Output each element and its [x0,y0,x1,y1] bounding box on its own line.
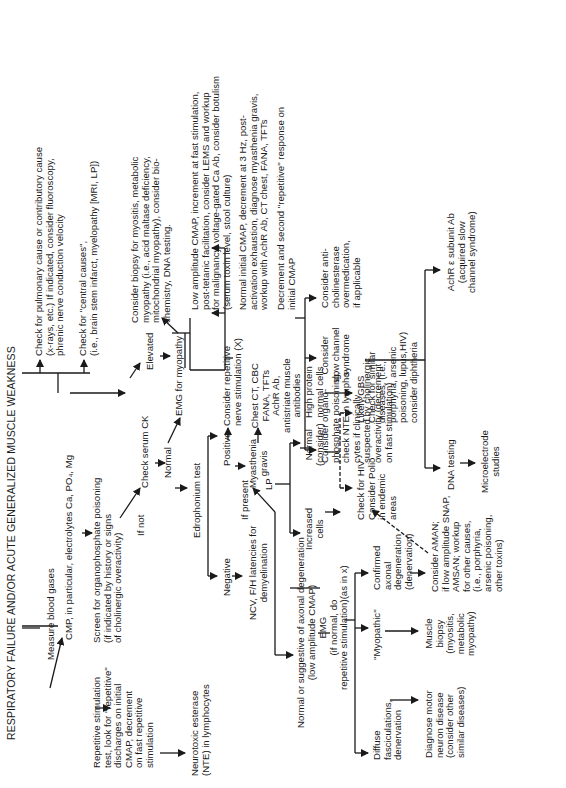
node-repetitive-stimulation-test: Repetitive stimulation test, look for "r… [92,667,156,768]
node-nte-lymphocytes: Neurotoxic esterase (NTE) in lymphocytes [190,684,211,776]
node-repetitive-nerve-stimulation: Consider repetitive nerve stimulation (X… [222,338,243,426]
node-muscle-biopsy: Muscle biopsy (myositis, metabolic myopa… [424,611,477,656]
label-if-present: If present [240,480,251,520]
node-central-causes: Check for "central causes", (i.e., brain… [78,161,99,356]
flowchart-page: RESPIRATORY FAILURE AND/OR ACUTE GENERAL… [0,0,566,788]
node-biopsy-myositis: Consider biopsy for myositis, metabolic … [130,156,172,323]
node-anticholinesterase: Consider anti- cholinesterase overmedica… [320,240,362,308]
node-emg: EMG (if normal, do repetitive stimulatio… [318,565,350,690]
label-if-not: If not [136,515,147,536]
node-confirmed-axonal: Confirmed axonal degeneration (denervati… [372,533,414,590]
node-normal-or-axonal: Normal or suggestive of axonal degenerat… [296,537,317,728]
label-positive: Positive [222,432,233,466]
node-normal-consider: Normal (consider) [304,423,325,466]
node-ncv-latencies: NCV, F/H latencies for demyelination [248,525,269,620]
node-consider-aman: Consider AMAN; if low amplitude SNAP, AM… [430,496,504,592]
node-motor-neuron-disease: Diagnose motor neuron disease (consider … [424,687,466,758]
node-edrophonium-test: Edrophonium test [192,463,203,538]
label-elevated: Elevated [145,333,156,370]
node-emg-myopathy: EMG for myopathy [174,336,185,416]
node-screen-organophosphate: Screen for organophosphate poisoning (if… [92,478,124,643]
node-chest-ct: Chest CT, CBC FANA, TFTs AchR Ab, antist… [250,358,303,433]
flowchart-title: RESPIRATORY FAILURE AND/OR ACUTE GENERAL… [6,346,17,740]
label-negative: Negative [222,558,233,596]
node-myopathic: "Myopathic" [372,609,383,660]
node-pulmonary: Check for pulmonary cause or contributor… [34,147,66,356]
node-check-serum-ck: Check serum CK [140,415,151,488]
node-likely-gbs: Likely GBS Check for similar diseases, (… [356,332,420,423]
node-achr-subunit-ab: AchR ε subunit Ab (acquired slow channel… [446,211,478,293]
node-decrement-second-response: Decrement and second "repetitive" respon… [276,107,297,310]
node-check-hiv: Check for HIV Consider Polio in endemic … [356,458,398,520]
node-lp: LP [264,478,275,490]
label-normal-ck: Normal [163,447,174,478]
node-dna-testing: DNA testing [446,439,457,490]
node-microelectrode-studies: Microelectrode studies [480,430,501,493]
node-measure-blood-gases: Measure blood gases [46,568,57,660]
node-low-amplitude-cmap: Low amplitude CMAP, increment at fast st… [190,76,232,310]
node-high-protein: High protein normal cells [304,366,325,418]
node-diffuse-fasciculations: Diffuse fasciculations, denervation [372,700,404,760]
node-normal-initial-cmap: Normal initial CMAP, decrement at 3 Hz, … [238,93,270,310]
node-cmp: CMP, in particular, electrolytes Ca, PO₄… [64,455,75,640]
